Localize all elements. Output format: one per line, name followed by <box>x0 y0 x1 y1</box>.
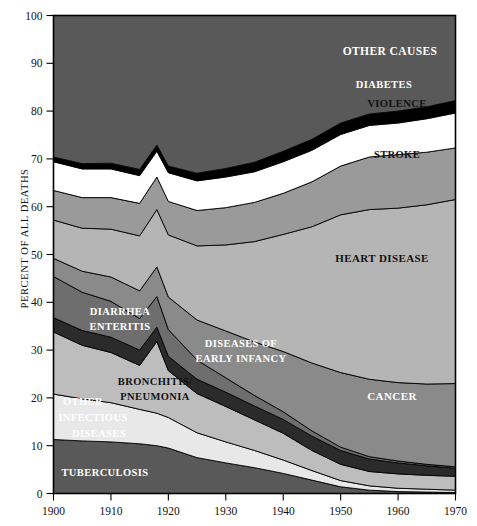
y-tick-label-50: 50 <box>31 249 43 261</box>
band-label-other-causes: OTHER CAUSES <box>343 45 438 57</box>
y-tick-label-80: 80 <box>31 105 43 117</box>
y-tick-label-0: 0 <box>37 488 43 500</box>
x-tick-label-1920: 1920 <box>157 505 180 517</box>
band-label-enteritis: ENTERITIS <box>90 321 151 332</box>
y-tick-label-90: 90 <box>31 57 43 69</box>
band-label-diabetes: DIABETES <box>356 79 412 90</box>
x-tick-label-1960: 1960 <box>387 505 410 517</box>
band-label-other-infectious-2: INFECTIOUS <box>58 412 127 423</box>
band-label-diarrhea: DIARRHEA <box>90 306 150 317</box>
band-label-early-infancy-1: DISEASES OF <box>205 338 277 349</box>
y-tick-label-30: 30 <box>31 344 43 356</box>
y-tick-label-70: 70 <box>31 153 43 165</box>
y-axis-title: PERCENT OF ALL DEATHS <box>19 129 30 349</box>
y-tick-label-100: 100 <box>25 10 43 22</box>
x-tick-label-1970: 1970 <box>444 505 467 517</box>
band-label-tuberculosis: TUBERCULOSIS <box>61 467 148 478</box>
stacked-area-chart: 0102030405060708090100190019101920193019… <box>0 0 477 526</box>
x-tick-label-1900: 1900 <box>42 505 65 517</box>
band-label-bronchitis: BRONCHITIS/ <box>118 376 193 387</box>
y-tick-label-60: 60 <box>31 201 43 213</box>
x-tick-label-1910: 1910 <box>99 505 122 517</box>
x-tick-label-1950: 1950 <box>329 505 352 517</box>
band-label-violence: VIOLENCE <box>367 98 426 109</box>
y-tick-label-20: 20 <box>31 392 43 404</box>
band-label-heart-disease: HEART DISEASE <box>335 252 429 264</box>
chart-root: PERCENT OF ALL DEATHS 010203040506070809… <box>0 0 477 526</box>
y-tick-label-40: 40 <box>31 296 43 308</box>
x-tick-label-1940: 1940 <box>272 505 295 517</box>
band-label-cancer: CANCER <box>367 390 417 402</box>
band-label-stroke: STROKE <box>374 149 420 160</box>
y-tick-label-10: 10 <box>31 440 43 452</box>
x-tick-label-1930: 1930 <box>214 505 237 517</box>
band-label-other-infectious-1: OTHER <box>63 396 103 407</box>
band-label-early-infancy-2: EARLY INFANCY <box>196 353 287 364</box>
band-label-other-infectious-3: DISEASES <box>72 428 126 439</box>
band-label-pneumonia: PNEUMONIA <box>120 391 190 402</box>
